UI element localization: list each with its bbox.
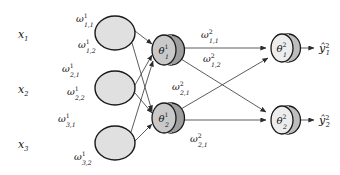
weight-label-w2-1-1: ω21,1 (201, 28, 219, 44)
edge-x1-to-h1 (135, 31, 152, 44)
input-layer (95, 16, 135, 160)
node-x2[interactable] (95, 71, 135, 105)
node-theta-1-2[interactable]: θ12 (152, 103, 185, 133)
edge-x2-to-h1 (135, 55, 152, 85)
weight-label-w1-2-1: ω12,1 (62, 62, 80, 78)
node-x1[interactable] (95, 16, 135, 50)
label-x3: x3 (18, 138, 28, 153)
node-theta-2-1[interactable]: θ21 (271, 34, 301, 62)
weight-label-w2-1-2: ω21,2 (203, 52, 221, 68)
weight-label-w1-2-2: ω12,2 (67, 85, 85, 101)
input-labels: x1 x2 x3 (18, 28, 28, 153)
node-theta-2-2[interactable]: θ22 (271, 106, 301, 134)
node-theta-1-1[interactable]: θ11 (152, 35, 185, 65)
edges-hidden-to-output (181, 48, 268, 120)
weight-label-w2-2-1-upper: ω22,1 (172, 80, 190, 96)
weight-label-w1-1-2: ω11,2 (78, 38, 96, 54)
diagram-canvas: θ11 θ12 θ21 (0, 0, 340, 175)
label-yhat-1: ŷ21 (318, 42, 330, 57)
edge-x3-to-h1 (131, 61, 153, 132)
edge-h2-to-o1 (181, 58, 268, 109)
edge-x3-to-h2 (135, 124, 152, 141)
weight-labels-layer-1: ω11,1 ω11,2 ω12,1 ω12,2 ω13,1 ω13,2 (58, 12, 96, 166)
weight-label-w2-2-1-lower: ω22,1 (190, 132, 208, 148)
node-x3[interactable] (95, 126, 135, 160)
weight-label-w1-3-1: ω13,1 (58, 112, 76, 128)
label-x1: x1 (18, 28, 28, 43)
edges-output-to-yhat (300, 48, 314, 120)
label-x2: x2 (18, 83, 28, 98)
label-yhat-2: ŷ22 (318, 114, 330, 129)
neural-network-diagram: θ11 θ12 θ21 (0, 0, 340, 175)
weight-label-w1-3-2: ω13,2 (74, 150, 92, 166)
weight-label-w1-1-1: ω11,1 (76, 12, 94, 28)
output-labels: ŷ21 ŷ22 (318, 42, 330, 129)
output-layer: θ21 θ22 (271, 34, 301, 134)
